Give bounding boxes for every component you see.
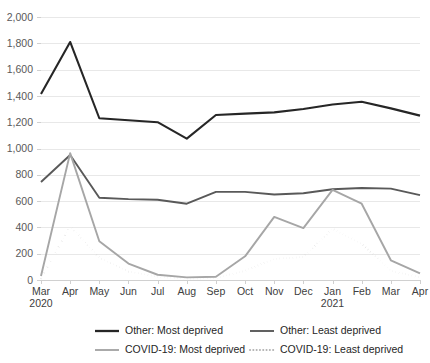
x-axis-year-label: 2020 <box>29 297 53 309</box>
y-axis-tick-label: 2,000 <box>7 11 33 23</box>
x-axis-tick-label: Nov <box>265 285 284 297</box>
x-axis-tick-label: Jan <box>324 285 341 297</box>
y-axis-tick-label: 1,200 <box>7 116 33 128</box>
legend-label: COVID-19: Least deprived <box>280 343 403 355</box>
x-axis-tick-label: Mar <box>32 285 51 297</box>
x-axis-tick-label: Sep <box>207 285 226 297</box>
x-axis-tick-label: Aug <box>177 285 196 297</box>
x-axis-tick-label: May <box>89 285 110 297</box>
x-axis-tick-label: Jul <box>151 285 164 297</box>
y-axis-tick-label: 0 <box>27 274 33 286</box>
legend-label: COVID-19: Most deprived <box>125 343 245 355</box>
y-axis-tick-label: 400 <box>15 221 33 233</box>
line-chart: 02004006008001,0001,2001,4001,6001,8002,… <box>0 0 430 363</box>
x-axis-tick-labels: MarAprMayJunJulAugSepOctNovDecJanFebMarA… <box>29 285 428 309</box>
gridlines <box>37 18 421 285</box>
y-axis-tick-labels: 02004006008001,0001,2001,4001,6001,8002,… <box>7 11 33 286</box>
y-axis-tick-label: 1,000 <box>7 142 33 154</box>
chart-container: 02004006008001,0001,2001,4001,6001,8002,… <box>0 0 430 363</box>
chart-legend: Other: Most deprivedOther: Least deprive… <box>95 324 403 355</box>
y-axis-tick-label: 1,800 <box>7 37 33 49</box>
y-axis-tick-label: 800 <box>15 168 33 180</box>
x-axis-tick-label: Dec <box>294 285 313 297</box>
series-line <box>41 42 420 139</box>
y-axis-tick-label: 1,600 <box>7 63 33 75</box>
series-line <box>41 153 420 277</box>
legend-label: Other: Most deprived <box>125 324 223 336</box>
legend-label: Other: Least deprived <box>280 324 381 336</box>
x-axis-tick-label: Apr <box>412 285 429 297</box>
y-axis-tick-label: 600 <box>15 195 33 207</box>
x-axis-tick-label: Jun <box>120 285 137 297</box>
y-axis-tick-label: 1,400 <box>7 90 33 102</box>
x-axis-tick-label: Feb <box>353 285 371 297</box>
x-axis-tick-label: Mar <box>382 285 401 297</box>
series-line <box>41 155 420 204</box>
y-axis-tick-label: 200 <box>15 247 33 259</box>
x-axis-year-label: 2021 <box>321 297 345 309</box>
data-series <box>41 42 420 279</box>
x-axis-tick-label: Apr <box>62 285 79 297</box>
x-axis-tick-label: Oct <box>237 285 253 297</box>
